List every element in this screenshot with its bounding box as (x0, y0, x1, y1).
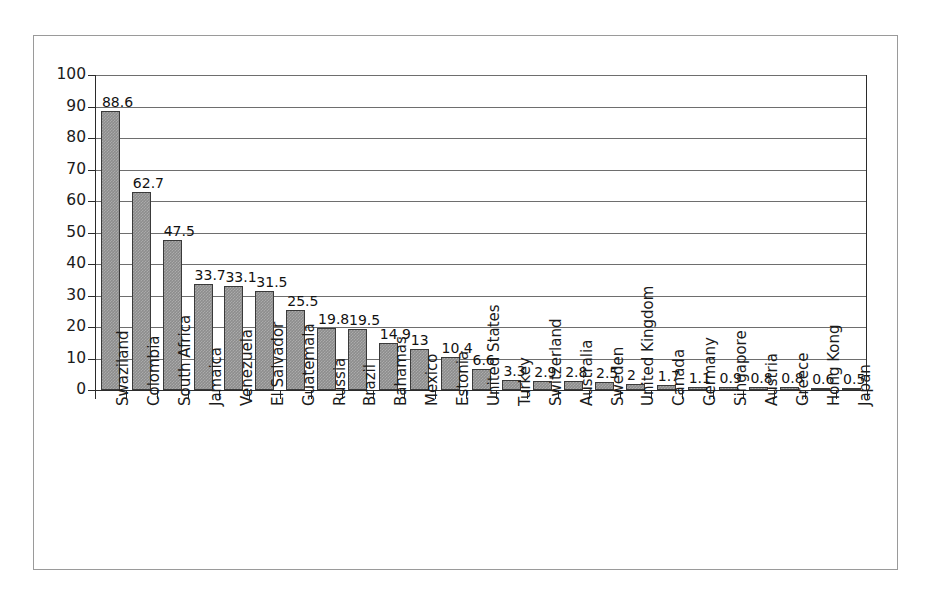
category-label: Colombia (147, 336, 162, 407)
y-axis-tick-mark (88, 264, 95, 265)
bar-value-label: 19.8 (318, 312, 349, 326)
y-axis-tick-label: 80 (42, 130, 86, 146)
category-label: Australia (580, 340, 595, 406)
category-label: South Africa (178, 315, 193, 406)
gridline (95, 264, 867, 265)
y-axis-tick-mark (88, 327, 95, 328)
y-axis-tick-label: 20 (42, 319, 86, 335)
bar-value-label: 33.1 (225, 270, 256, 284)
y-axis-tick-label: 0 (42, 382, 86, 398)
plot-right-border (866, 75, 867, 391)
category-label: Japan (858, 364, 873, 406)
category-label: Germany (703, 337, 718, 406)
gridline (95, 170, 867, 171)
y-axis-tick-mark (88, 390, 95, 391)
y-axis-tick-label: 40 (42, 256, 86, 272)
y-axis-tick-mark (88, 170, 95, 171)
category-label: El Salvador (271, 322, 286, 406)
category-label: Switzerland (549, 319, 564, 407)
y-axis-tick-label: 70 (42, 162, 86, 178)
gridline (95, 75, 867, 76)
category-label: Turkey (518, 357, 533, 406)
category-label: Hong Kong (827, 324, 842, 406)
y-axis-tick-mark (88, 359, 95, 360)
category-label: Swaziland (116, 331, 131, 406)
category-label: Brazil (363, 364, 378, 406)
category-label: Estonia (456, 351, 471, 406)
bar-value-label: 62.7 (133, 176, 164, 190)
bar-value-label: 88.6 (102, 95, 133, 109)
category-label: Austria (765, 353, 780, 406)
y-axis-tick-label: 60 (42, 193, 86, 209)
y-axis-tick-mark (88, 201, 95, 202)
category-label: Sweden (611, 347, 626, 406)
category-label: Jamaica (209, 347, 224, 406)
y-axis-tick-mark (88, 233, 95, 234)
gridline (95, 233, 867, 234)
y-axis-tick-label: 100 (42, 67, 86, 83)
bar-value-label: 19.5 (349, 313, 380, 327)
category-label: Greece (796, 353, 811, 406)
chart-figure: 0102030405060708090100 88.662.747.533.73… (0, 0, 930, 603)
x-axis-tick-mark (95, 391, 96, 399)
y-axis-line (95, 75, 96, 391)
category-label: Russia (333, 358, 348, 406)
category-label: United Kingdom (641, 286, 656, 406)
bar-value-label: 13 (411, 333, 429, 347)
y-axis-tick-mark (88, 138, 95, 139)
y-axis-tick-mark (88, 75, 95, 76)
category-label: Guatemala (302, 323, 317, 406)
y-axis-tick-mark (88, 107, 95, 108)
category-label: Mexico (425, 354, 440, 406)
y-axis-tick-labels: 0102030405060708090100 (36, 0, 86, 603)
y-axis-tick-label: 90 (42, 99, 86, 115)
y-axis-tick-label: 30 (42, 288, 86, 304)
bar-value-label: 47.5 (164, 224, 195, 238)
y-axis-tick-label: 10 (42, 351, 86, 367)
y-axis-tick-mark (88, 296, 95, 297)
category-label: United States (487, 304, 502, 406)
bar-value-label: 2 (627, 368, 636, 382)
category-label: Canada (672, 349, 687, 406)
category-label: Singapore (734, 330, 749, 406)
bar-value-label: 31.5 (256, 275, 287, 289)
bar-value-label: 33.7 (195, 268, 226, 282)
gridline (95, 201, 867, 202)
category-label: Venezuela (240, 329, 255, 406)
gridline (95, 138, 867, 139)
bar-value-label: 25.5 (287, 294, 318, 308)
y-axis-tick-label: 50 (42, 225, 86, 241)
gridline (95, 107, 867, 108)
category-label: Bahamas (394, 336, 409, 406)
